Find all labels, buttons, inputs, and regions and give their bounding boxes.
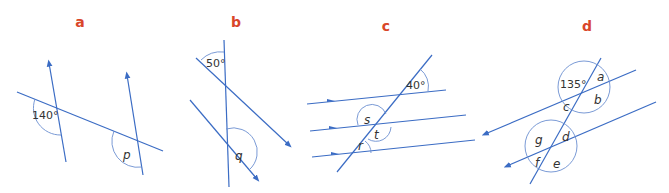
angle-label-b: b — [594, 93, 602, 107]
angle-label-135: 135° — [560, 78, 587, 91]
transversal-line — [530, 58, 601, 184]
angle-label-q: q — [235, 149, 243, 163]
panel-label-d: d — [582, 18, 592, 34]
angle-label-c: c — [563, 100, 570, 114]
angle-label-140: 140° — [32, 109, 59, 122]
angle-label-50: 50° — [206, 57, 226, 70]
angle-label-g: g — [535, 133, 543, 147]
angle-label-d: d — [562, 130, 570, 144]
parallel-line-3 — [312, 140, 475, 157]
angle-label-t: t — [374, 128, 380, 142]
angle-label-f: f — [535, 156, 541, 170]
angle-label-p: p — [122, 148, 131, 162]
angle-label-e: e — [553, 157, 560, 171]
parallel-line-1 — [196, 58, 289, 145]
parallel-line-2 — [507, 102, 656, 166]
panel-b: b 50° q — [190, 14, 289, 187]
angle-label-a: a — [597, 70, 604, 84]
parallel-line-2 — [190, 100, 257, 179]
angle-label-r: r — [358, 139, 364, 153]
angle-label-s: s — [364, 113, 370, 127]
parallel-line-2 — [310, 115, 466, 131]
panel-d: d 135° a b c d g f e — [485, 18, 656, 184]
panel-a: a 140° p — [17, 14, 163, 175]
panel-label-b: b — [231, 14, 241, 30]
panel-c: c 40° s t r — [307, 18, 475, 172]
angle-diagrams: a 140° p b 50° q c 40° s t r — [0, 0, 669, 193]
angle-label-40: 40° — [406, 79, 426, 92]
panel-label-a: a — [75, 14, 84, 30]
panel-label-c: c — [382, 18, 390, 34]
angle-arc-s — [357, 104, 386, 125]
parallel-line-1 — [307, 90, 446, 104]
transversal-line — [337, 55, 432, 172]
